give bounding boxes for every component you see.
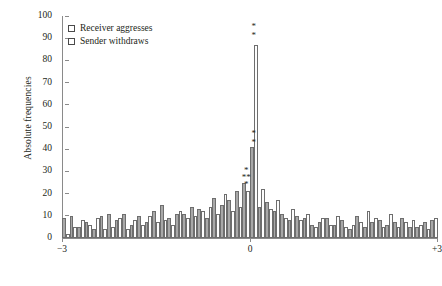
significance-asterisk: * bbox=[244, 181, 249, 187]
y-tick-label: 60 bbox=[43, 98, 53, 111]
y-tick-label: 100 bbox=[38, 9, 52, 22]
plot-area: 0102030405060708090100 −30+3 ******** bbox=[62, 16, 438, 238]
y-axis-label: Absolute frequencies bbox=[23, 38, 33, 198]
legend-swatch-icon bbox=[68, 25, 75, 32]
x-tick-mark bbox=[62, 238, 63, 242]
y-tick-label: 70 bbox=[43, 76, 53, 89]
y-tick-label: 80 bbox=[43, 53, 53, 66]
x-tick-label: −3 bbox=[57, 244, 67, 254]
significance-asterisk: * bbox=[252, 130, 257, 136]
y-tick-label: 90 bbox=[43, 31, 53, 44]
legend-label: Sender withdraws bbox=[80, 35, 148, 48]
significance-asterisk: * bbox=[252, 23, 257, 29]
bar-group bbox=[62, 16, 438, 238]
legend-label: Receiver aggresses bbox=[80, 22, 153, 35]
significance-asterisk: * bbox=[252, 32, 257, 38]
x-tick-mark bbox=[437, 238, 438, 242]
x-tick-label: 0 bbox=[248, 244, 253, 254]
significance-asterisk: * bbox=[252, 139, 257, 145]
y-tick-label: 30 bbox=[43, 164, 53, 177]
y-tick-label: 40 bbox=[43, 142, 53, 155]
bar bbox=[434, 218, 438, 238]
y-tick-label: 50 bbox=[43, 120, 53, 133]
x-tick-mark bbox=[250, 238, 251, 242]
y-tick-label: 0 bbox=[47, 231, 52, 244]
legend: Receiver aggressesSender withdraws bbox=[68, 22, 153, 48]
legend-item: Receiver aggresses bbox=[68, 22, 153, 35]
x-tick-label: +3 bbox=[432, 244, 442, 254]
y-tick-label: 20 bbox=[43, 187, 53, 200]
legend-swatch-icon bbox=[68, 38, 75, 45]
y-tick-label: 10 bbox=[43, 209, 53, 222]
legend-item: Sender withdraws bbox=[68, 35, 153, 48]
